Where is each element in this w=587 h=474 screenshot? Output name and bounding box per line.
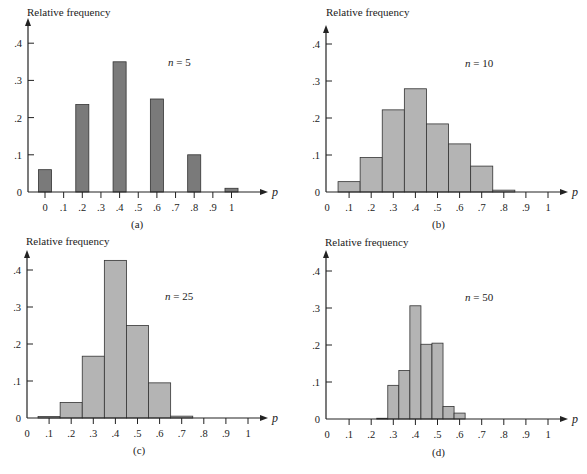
svg-text:.7: .7 xyxy=(478,429,486,440)
svg-text:.4: .4 xyxy=(312,266,321,277)
svg-text:.4: .4 xyxy=(411,429,420,440)
svg-text:.5: .5 xyxy=(434,429,442,440)
histogram-bar xyxy=(399,371,410,419)
svg-text:0: 0 xyxy=(324,429,329,440)
svg-text:.1: .1 xyxy=(312,377,320,388)
svg-text:1: 1 xyxy=(545,429,550,440)
histogram-bar xyxy=(454,413,465,419)
histogram-bar xyxy=(421,344,432,419)
histogram-bar xyxy=(388,385,399,419)
svg-text:.2: .2 xyxy=(367,429,375,440)
histogram-bar xyxy=(443,406,454,419)
svg-text:.8: .8 xyxy=(500,429,508,440)
svg-text:0: 0 xyxy=(315,414,320,425)
chart-plot-area: 0.1.2.3.40.1.2.3.4.5.6.7.8.91p xyxy=(0,0,587,474)
svg-text:p: p xyxy=(571,412,578,426)
svg-text:.2: .2 xyxy=(312,340,320,351)
svg-text:.9: .9 xyxy=(522,429,530,440)
svg-text:.3: .3 xyxy=(389,429,397,440)
histogram-bar xyxy=(410,306,421,419)
svg-text:.1: .1 xyxy=(345,429,353,440)
svg-text:.6: .6 xyxy=(456,429,464,440)
histogram-panel-d: Relative frequency n = 50 (d) 0.1.2.3.40… xyxy=(0,0,587,474)
histogram-bar xyxy=(432,343,443,419)
svg-text:.3: .3 xyxy=(312,303,320,314)
